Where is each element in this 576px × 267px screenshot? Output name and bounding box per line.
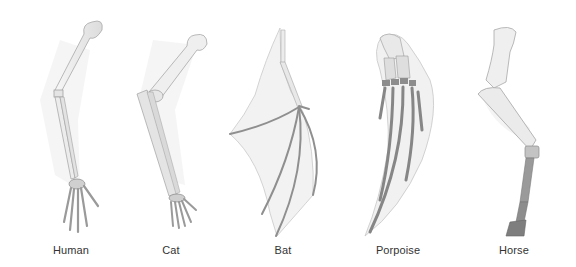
label-horse: Horse	[474, 244, 554, 256]
human-arm-illustration	[20, 0, 110, 240]
label-bat: Bat	[243, 244, 323, 256]
label-cat: Cat	[131, 244, 211, 256]
homologous-limbs-diagram: Human Cat	[0, 0, 576, 267]
bat-wing-illustration	[225, 0, 335, 240]
label-human: Human	[31, 244, 111, 256]
cat-leg-illustration	[125, 0, 215, 240]
label-porpoise: Porpoise	[358, 244, 438, 256]
porpoise-flipper-illustration	[360, 0, 440, 240]
horse-leg-illustration	[470, 0, 550, 240]
